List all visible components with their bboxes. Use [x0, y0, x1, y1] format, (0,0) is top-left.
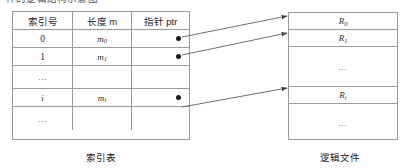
column-header-length: 长度 m [73, 12, 132, 29]
table-row-ellipsis: ⋯ [13, 107, 189, 130]
column-header-pointer: 指针 ptr [132, 12, 189, 29]
cell-index-number: ⋯ [13, 66, 73, 88]
index-file-structure-diagram: 件的逻辑结构示意图 索引号 长度 m 指针 ptr 0 m0 1 m1 ⋯ i … [0, 0, 409, 168]
record-row: R1 [289, 30, 397, 47]
pointer-dot-icon [176, 95, 181, 100]
record-row: Ri [289, 87, 397, 104]
table-row: 1 m1 [13, 48, 189, 66]
pointer-dot-icon [176, 54, 181, 59]
table-row: i mi [13, 89, 189, 107]
logical-file-caption: 逻辑文件 [320, 150, 360, 164]
cell-length: m1 [73, 48, 132, 65]
cell-index-number: ⋯ [13, 107, 73, 130]
table-row-ellipsis: ⋯ [13, 66, 189, 89]
cell-index-number: 0 [13, 30, 73, 47]
cell-index-number: 1 [13, 48, 73, 65]
record-row-ellipsis: ⋯ [289, 104, 397, 141]
cell-length [73, 66, 132, 88]
clipped-caption-text: 件的逻辑结构示意图 [6, 0, 166, 3]
index-table-caption: 索引表 [86, 150, 116, 164]
record-row-ellipsis: ⋯ [289, 47, 397, 87]
pointer-dot-icon [176, 36, 181, 41]
cell-length: m0 [73, 30, 132, 47]
cell-pointer [132, 89, 189, 106]
column-header-index-number: 索引号 [13, 12, 73, 29]
cell-length [73, 107, 132, 130]
arrow-indexi-to-Ri [182, 88, 287, 107]
arrow-index1-to-R1 [182, 33, 287, 55]
cell-index-number: i [13, 89, 73, 106]
table-row: 0 m0 [13, 30, 189, 48]
record-row: R0 [289, 13, 397, 30]
cell-length: mi [73, 89, 132, 106]
cell-pointer [132, 107, 189, 130]
table-header-row: 索引号 长度 m 指针 ptr [13, 12, 189, 30]
logical-file-box: R0 R1 ⋯ Ri ⋯ [288, 12, 398, 140]
cell-pointer [132, 48, 189, 65]
cell-pointer [132, 66, 189, 88]
cell-pointer [132, 30, 189, 47]
index-table: 索引号 长度 m 指针 ptr 0 m0 1 m1 ⋯ i mi ⋯ [12, 11, 190, 140]
arrow-index0-to-R0 [182, 16, 287, 37]
